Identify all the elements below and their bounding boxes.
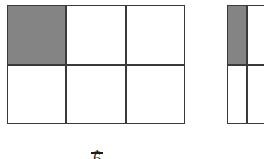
grid-cell-r2c2 [248, 66, 264, 124]
grid-cell-r1c2 [248, 6, 264, 64]
grid-cell-r2c1 [8, 66, 65, 124]
grid-cell-r2c2 [67, 66, 124, 124]
left-area-model [7, 5, 185, 124]
grid-cell-r1c3 [127, 6, 184, 64]
right-area-model [227, 5, 264, 124]
grid-cell-r2c3 [127, 66, 184, 124]
figure-canvas: 1 6 [0, 0, 264, 159]
fraction-denominator: 6 [91, 154, 103, 159]
grid-cell-r1c1-shaded [228, 6, 246, 64]
grid-cell-r1c1-shaded [8, 6, 65, 64]
grid-cell-r1c2 [67, 6, 124, 64]
fraction: 1 6 [91, 150, 103, 159]
left-model-caption: 1 6 [84, 150, 110, 159]
grid-cell-r2c1 [228, 66, 246, 124]
